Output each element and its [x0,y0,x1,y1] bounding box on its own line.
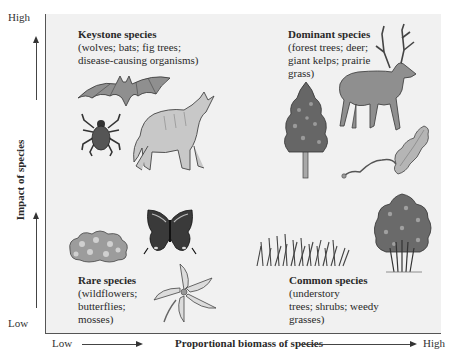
common-desc-line: trees; shrubs; weedy [289,300,379,313]
x-axis-line [45,333,441,334]
keystone-species-label: Keystone species (wolves; bats; fig tree… [78,28,198,67]
y-axis-guide-bottom [36,218,37,308]
x-axis-title: Proportional biomass of species [175,337,323,349]
kelp-icon [340,126,436,182]
shrub-icon [372,192,434,274]
keystone-desc-line: disease-causing organisms) [78,54,198,67]
common-desc-line: (understory [289,287,379,300]
rare-title: Rare species [78,274,137,287]
common-title: Common species [289,274,379,287]
forest-tree-icon [281,80,331,180]
x-axis-arrow-right-icon [410,341,417,347]
rare-desc-line: mosses) [78,313,137,326]
y-axis-low-label: Low [8,317,28,329]
common-species-label: Common species (understory trees; shrubs… [289,274,379,326]
y-axis-line [45,14,46,334]
rare-desc-line: butterflies; [78,300,137,313]
wildflower-icon [150,260,220,326]
y-axis-guide-top [36,42,37,100]
tick-icon [80,112,122,158]
y-axis-title-text: Impact of species [14,140,26,221]
grass-icon [255,232,351,266]
y-axis-high-label: High [8,11,30,23]
wolf-icon [128,86,216,174]
x-axis-guide-left [82,344,137,345]
common-desc-line: grasses) [289,313,379,326]
rare-species-label: Rare species (wildflowers; butterflies; … [78,274,137,326]
x-axis-arrow-mid-icon [136,341,143,347]
x-axis-low-label: Low [52,337,72,349]
y-axis-arrow-mid-icon [33,212,39,219]
deer-icon [334,22,444,138]
keystone-title: Keystone species [78,28,198,41]
x-axis-high-label: High [423,337,445,349]
butterfly-icon [144,208,196,256]
moss-icon [66,228,130,264]
y-axis-title: Impact of species [5,50,35,310]
keystone-desc-line: (wolves; bats; fig trees; [78,41,198,54]
x-axis-guide-right [300,344,410,345]
rare-desc-line: (wildflowers; [78,287,137,300]
